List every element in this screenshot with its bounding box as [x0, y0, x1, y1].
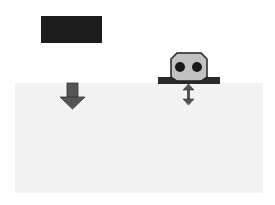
double-arrow-icon [183, 84, 194, 105]
sensor-device-icon [171, 53, 207, 81]
down-arrow-icon [60, 83, 85, 109]
diagram-canvas [0, 0, 275, 205]
